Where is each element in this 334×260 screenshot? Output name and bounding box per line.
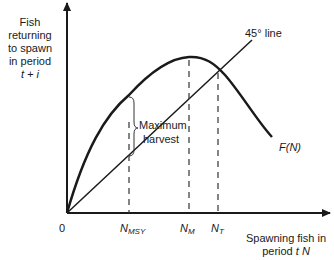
tick-nm: NM [180,222,195,236]
maximum-harvest-label: Maximum harvest [139,118,187,146]
y-axis-label: Fish returning to spawn in period t + i [4,16,56,81]
tick-nmsy: NMSY [120,222,145,236]
tick-nt: NT [211,222,224,236]
x-axis-label: Spawning fish in period t N [238,232,334,258]
origin-label: 0 [59,222,65,235]
forty-five-line-label: 45° line [245,27,282,40]
curve-label-fn: F(N) [279,141,301,154]
